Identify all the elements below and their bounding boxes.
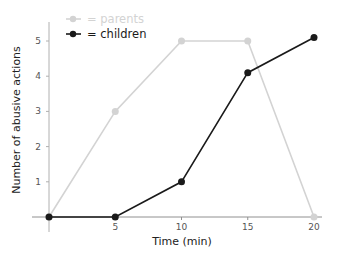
- legend-marker-parents: [70, 16, 76, 22]
- data-point-parents: [311, 214, 318, 221]
- legend: = parents = children: [66, 12, 146, 41]
- series-parents: [46, 38, 318, 221]
- data-point-children: [178, 178, 185, 185]
- x-ticks: 5101520: [112, 217, 320, 232]
- x-axis-label: Time (min): [151, 235, 212, 248]
- y-tick-label: 4: [35, 71, 41, 81]
- data-point-parents: [112, 108, 119, 115]
- legend-label-children: = children: [87, 27, 146, 41]
- series-children: [46, 34, 318, 221]
- data-point-children: [112, 214, 119, 221]
- y-tick-label: 5: [35, 36, 41, 46]
- y-tick-label: 3: [35, 106, 41, 116]
- legend-item-children: = children: [66, 27, 146, 41]
- axes: [32, 22, 322, 232]
- data-point-children: [311, 34, 318, 41]
- legend-label-parents: = parents: [87, 12, 144, 26]
- y-tick-label: 2: [35, 142, 41, 152]
- x-tick-label: 5: [112, 222, 118, 232]
- x-tick-label: 20: [308, 222, 320, 232]
- series-layer: [46, 34, 318, 221]
- data-point-parents: [244, 38, 251, 45]
- x-tick-label: 15: [242, 222, 253, 232]
- data-point-children: [46, 214, 53, 221]
- series-line-parents: [49, 41, 314, 217]
- data-point-parents: [178, 38, 185, 45]
- legend-item-parents: = parents: [66, 12, 144, 26]
- legend-marker-children: [70, 31, 76, 37]
- x-tick-label: 10: [176, 222, 188, 232]
- series-line-children: [49, 37, 314, 217]
- line-chart: 12345 5101520 Time (min) Number of abusi…: [0, 0, 337, 259]
- data-point-children: [244, 69, 251, 76]
- y-ticks: 12345: [35, 36, 49, 187]
- y-tick-label: 1: [35, 177, 41, 187]
- y-axis-label: Number of abusive actions: [10, 46, 23, 194]
